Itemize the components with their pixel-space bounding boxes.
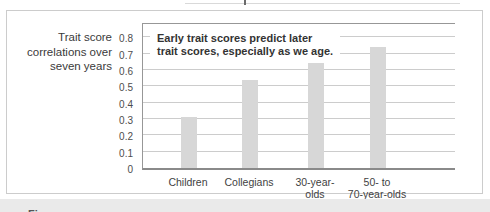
column-tick-mark	[244, 0, 246, 5]
bar	[242, 80, 258, 168]
y-tick-label: 0	[95, 164, 133, 175]
chart-annotation: Early trait scores predict later trait s…	[150, 29, 340, 61]
y-tick-label: 0.6	[95, 66, 133, 77]
page-rule-line	[185, 3, 460, 4]
gridline	[143, 102, 455, 103]
y-tick-label: 0.3	[95, 115, 133, 126]
gridline	[143, 69, 455, 70]
bar	[181, 117, 197, 168]
y-axis-tick-labels: 00.10.20.30.40.50.60.70.8	[95, 23, 133, 170]
y-tick-label: 0.7	[95, 50, 133, 61]
y-tick-label: 0.4	[95, 99, 133, 110]
bar	[370, 47, 386, 168]
y-tick-label: 0.8	[95, 33, 133, 44]
caption-text-fragment: Figure	[28, 208, 62, 212]
caption-band: Figure	[0, 199, 490, 212]
y-tick-label: 0.1	[95, 148, 133, 159]
bar	[308, 63, 324, 168]
y-tick-label: 0.5	[95, 82, 133, 93]
y-tick-label: 0.2	[95, 131, 133, 142]
x-tick-label: 50- to 70-year-olds	[332, 177, 422, 200]
x-axis-tick-labels: ChildrenCollegians30-year- olds50- to 70…	[142, 177, 455, 201]
textbook-figure-page: Trait score correlations over seven year…	[0, 0, 490, 212]
gridline	[143, 85, 455, 86]
